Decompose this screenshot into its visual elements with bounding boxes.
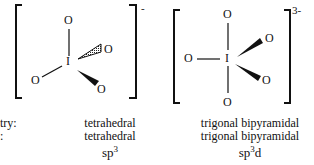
atom-o-lower-right-2: O	[262, 74, 271, 87]
shape-2: trigonal bipyramidal	[185, 130, 314, 143]
left-bracket	[16, 5, 22, 98]
atom-o-upper-right-2: O	[265, 32, 274, 45]
charge-2: 3-	[292, 4, 301, 17]
bond-left	[42, 66, 62, 77]
solid-wedge-bond	[77, 70, 99, 86]
right-bracket	[284, 10, 290, 103]
hybridization-2: sp3d	[185, 146, 314, 159]
row-label-shape: :	[0, 130, 3, 143]
shape-1: tetrahedral	[60, 130, 160, 143]
atom-o-top-1: O	[64, 14, 73, 27]
atom-o-left-2: O	[184, 52, 193, 65]
solid-wedge-lower	[235, 64, 261, 81]
hashed-wedge-bond	[78, 44, 101, 59]
atom-i-2: I	[225, 52, 229, 65]
atom-o-right-1: O	[104, 43, 113, 56]
atom-o-bottom-2: O	[223, 96, 232, 109]
atom-i-1: I	[66, 55, 70, 68]
atom-o-top-2: O	[223, 8, 232, 21]
right-bracket	[129, 5, 136, 98]
charge-1: -	[141, 2, 145, 15]
left-bracket	[174, 10, 180, 103]
solid-wedge-upper	[237, 38, 263, 57]
atom-o-bottom-1: O	[97, 83, 106, 96]
hybridization-1: sp3	[60, 146, 160, 159]
atom-o-left-1: O	[31, 74, 40, 87]
